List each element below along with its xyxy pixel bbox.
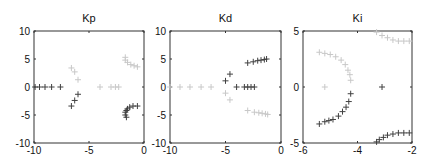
subplot-kp: Kp-10-50-10-50510 — [16, 12, 148, 156]
subplot-title: Kd — [219, 12, 232, 24]
y-tick-label: -5 — [290, 138, 299, 149]
x-tick-label: -4 — [353, 145, 362, 156]
y-tick-label: 0 — [160, 82, 166, 93]
y-tick-label: 5 — [160, 54, 166, 65]
subplot-title: Ki — [353, 12, 363, 24]
figure-canvas: Kp-10-50-10-50510Kd-10-50-10-50510Ki-6-4… — [0, 0, 429, 165]
y-tick-label: 0 — [293, 82, 299, 93]
x-tick-label: -2 — [408, 145, 417, 156]
subplot-ki: Ki-6-4-2-505 — [290, 12, 417, 156]
y-tick-label: -5 — [21, 110, 30, 121]
y-tick-label: -10 — [152, 138, 167, 149]
y-tick-label: 0 — [24, 82, 30, 93]
x-tick-label: -5 — [221, 145, 230, 156]
axes-box — [170, 31, 281, 143]
y-tick-label: 10 — [155, 26, 167, 37]
subplot-title: Kp — [82, 12, 95, 24]
y-tick-label: 10 — [19, 26, 31, 37]
x-tick-label: -6 — [299, 145, 308, 156]
y-tick-label: -5 — [157, 110, 166, 121]
y-tick-label: -10 — [16, 138, 31, 149]
y-tick-label: 5 — [24, 54, 30, 65]
x-tick-label: -5 — [85, 145, 94, 156]
x-tick-label: 0 — [141, 145, 147, 156]
x-tick-label: 0 — [278, 145, 284, 156]
subplot-kd: Kd-10-50-10-50510 — [152, 12, 285, 156]
y-tick-label: 5 — [293, 26, 299, 37]
